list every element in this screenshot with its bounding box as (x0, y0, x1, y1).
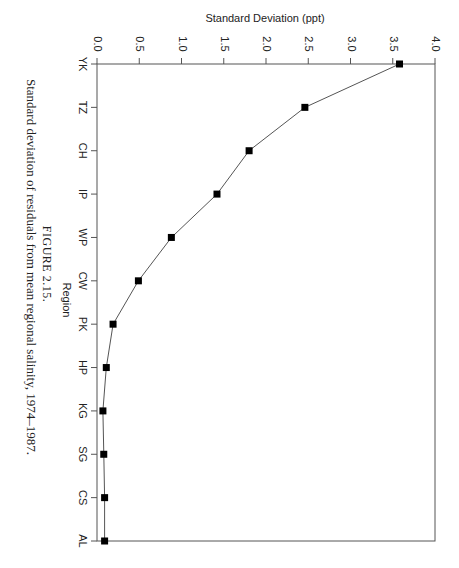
data-point-marker (168, 234, 175, 241)
data-point-marker (103, 364, 110, 371)
data-series (99, 61, 403, 545)
figure-caption: Standard deviation of residuals from mea… (24, 79, 39, 455)
category-tick-label: SG (77, 446, 89, 462)
value-tick-label: 2.0 (261, 36, 273, 51)
plot-frame (97, 64, 435, 541)
category-tick-label: PK (77, 317, 89, 332)
category-tick-label: CS (77, 490, 89, 505)
category-tick-label: AL (77, 534, 89, 547)
category-tick-label: CW (77, 272, 89, 291)
value-tick-label: 0.0 (92, 36, 104, 51)
data-point-marker (396, 61, 403, 68)
category-tick-label: WP (77, 229, 89, 247)
data-point-marker (100, 451, 107, 458)
data-point-marker (101, 494, 108, 501)
value-tick-label: 1.0 (177, 36, 189, 51)
value-tick-label: 2.5 (303, 36, 315, 51)
figure-number: FIGURE 2.15. (40, 226, 54, 302)
figure-page: 0.00.51.01.52.02.53.03.54.0 YKTZCHIPWPCW… (0, 0, 459, 568)
value-tick-label: 0.5 (134, 36, 146, 51)
data-point-marker (246, 147, 253, 154)
category-tick-label: HP (77, 360, 89, 375)
value-axis-title: Standard Deviation (ppt) (205, 12, 324, 24)
category-tick-label: TZ (77, 101, 89, 115)
data-point-marker (301, 104, 308, 111)
category-axis-title: Region (61, 283, 73, 318)
value-tick-label: 3.0 (346, 36, 358, 51)
category-tick-label: KG (77, 403, 89, 419)
line-chart: 0.00.51.01.52.02.53.03.54.0 YKTZCHIPWPCW… (0, 0, 459, 568)
category-axis-ticks: YKTZCHIPWPCWPKHPKGSGCSAL (77, 57, 97, 548)
category-tick-label: YK (77, 57, 89, 72)
data-point-marker (213, 191, 220, 198)
data-point-marker (110, 321, 117, 328)
value-axis-ticks: 0.00.51.01.52.02.53.03.54.0 (92, 36, 442, 64)
category-tick-label: CH (77, 143, 89, 159)
category-tick-label: IP (77, 189, 89, 199)
value-tick-label: 3.5 (388, 36, 400, 51)
value-tick-label: 4.0 (430, 36, 442, 51)
data-point-marker (135, 277, 142, 284)
data-point-marker (101, 538, 108, 545)
value-tick-label: 1.5 (219, 36, 231, 51)
series-line (103, 64, 400, 541)
data-point-marker (99, 407, 106, 414)
